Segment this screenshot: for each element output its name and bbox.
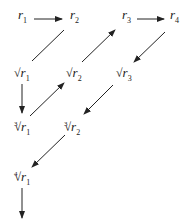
subscript: 3 [127, 16, 131, 25]
subscript: 4 [175, 16, 179, 25]
subscript: 1 [26, 74, 30, 83]
node-sqrt-r3: √r3 [116, 66, 132, 83]
line-r2-sqrt-r1 [32, 30, 64, 61]
node-cbrt-r2: 3√r2 [64, 120, 80, 137]
diagram-arrows [0, 0, 188, 224]
subscript: 2 [76, 128, 80, 137]
node-r4: r4 [170, 8, 179, 25]
subscript: 1 [26, 128, 30, 137]
root-index: 3 [64, 120, 68, 128]
subscript: 1 [23, 16, 27, 25]
node-r2: r2 [70, 8, 79, 25]
subscript: 2 [75, 16, 79, 25]
arrow-cbrt-r2-qrt-r1 [32, 135, 65, 167]
subscript: 2 [78, 74, 82, 83]
radical-sign: √ [14, 66, 21, 80]
arrow-r4-sqrt-r3 [134, 32, 165, 62]
arrow-cbrt-r1-sqrt-r2 [30, 83, 64, 116]
node-qrt-r1: 4√r1 [14, 170, 30, 187]
subscript: 3 [128, 74, 132, 83]
node-sqrt-r2: √r2 [66, 66, 82, 83]
subscript: 1 [26, 178, 30, 187]
root-index: 4 [14, 170, 18, 178]
arrow-sqrt-r3-cbrt-r2 [84, 85, 113, 114]
node-r1: r1 [18, 8, 27, 25]
arrow-sqrt-r2-r3 [82, 30, 115, 62]
radical-sign: √ [66, 66, 73, 80]
root-index: 3 [14, 120, 18, 128]
radical-sign: √ [116, 66, 123, 80]
node-r3: r3 [122, 8, 131, 25]
node-sqrt-r1: √r1 [14, 66, 30, 83]
node-cbrt-r1: 3√r1 [14, 120, 30, 137]
